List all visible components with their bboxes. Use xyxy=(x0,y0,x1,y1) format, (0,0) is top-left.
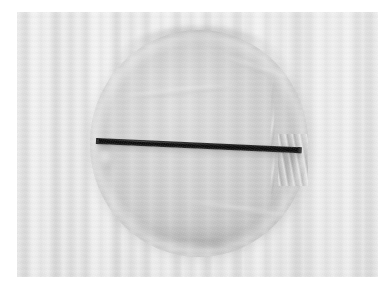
image-caption: Circular translucent fabric disc with a … xyxy=(0,0,1,1)
image-canvas: Circular translucent fabric disc with a … xyxy=(0,0,392,293)
rod-right-end xyxy=(298,147,302,153)
photograph xyxy=(17,12,378,277)
rod-left-end xyxy=(96,138,99,144)
